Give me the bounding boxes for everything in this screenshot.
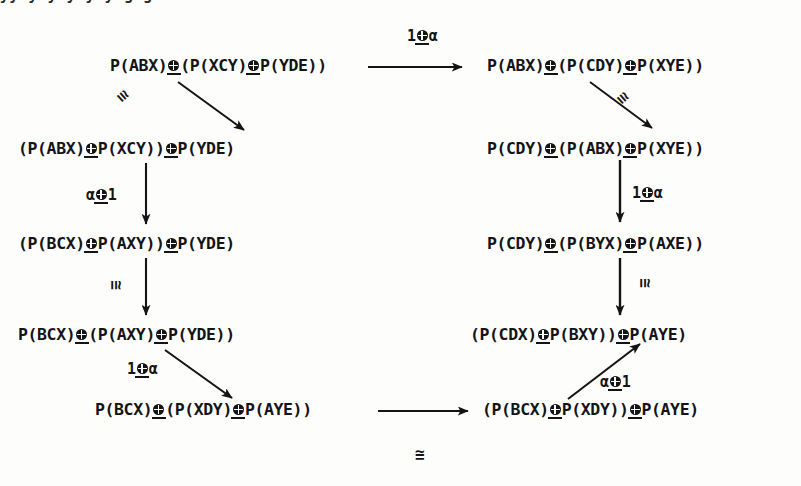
tensor-icon <box>544 143 557 156</box>
node-bottom-left-part-1: P(BCX) <box>95 400 152 419</box>
tensor-icon <box>617 329 630 342</box>
label-right-1-tensor-alpha: 1α <box>632 186 663 201</box>
node-right-3-part-2: (P(BYX) <box>557 234 624 253</box>
arrow-top-left-diagonal <box>178 82 244 130</box>
congruence-right-vertical: ≅ <box>637 278 653 288</box>
node-top-right: P(ABX)(P(CDY)P(XYE)) <box>487 58 704 75</box>
node-right-3-part-3: P(AXE)) <box>637 234 704 253</box>
node-right-4-part-3: P(AYE) <box>630 325 687 344</box>
node-bottom-right-part-3: P(AYE) <box>642 400 699 419</box>
tensor-icon <box>152 404 165 417</box>
node-right-4: (P(CDX)P(BXY))P(AYE) <box>470 327 687 344</box>
label-left-alpha-tensor-1: α1 <box>86 188 117 203</box>
tensor-icon <box>167 60 180 73</box>
tensor-icon <box>85 238 98 251</box>
node-left-4: P(BCX)(P(AXY)P(YDE)) <box>18 327 235 344</box>
label-left-1-tensor-alpha: 1α <box>127 362 158 377</box>
tensor-icon <box>136 363 149 376</box>
label-right-alpha-tensor-1: α1 <box>600 375 631 390</box>
node-top-right-part-1: P(ABX) <box>487 56 544 75</box>
tensor-icon <box>85 143 98 156</box>
tensor-icon <box>537 329 550 342</box>
label-right-alpha1-right-operand: 1 <box>622 373 631 391</box>
cropped-text-line-glyphs: yy y y y y y g g <box>0 0 153 4</box>
tensor-icon <box>165 238 178 251</box>
tensor-icon <box>641 187 654 200</box>
node-left-2-part-1: (P(ABX) <box>18 139 85 158</box>
node-bottom-right-part-2: P(XDY)) <box>562 400 629 419</box>
tensor-icon <box>247 60 260 73</box>
tensor-icon <box>95 189 108 202</box>
node-right-2-part-1: P(CDY) <box>487 139 544 158</box>
cropped-text-line: yy y y y y y g g <box>0 0 801 9</box>
node-right-2-part-3: P(XYE)) <box>637 139 704 158</box>
node-top-left-part-3: P(YDE)) <box>260 56 327 75</box>
congruence-top-right-diagonal: ≅ <box>614 89 632 107</box>
node-bottom-right: (P(BCX)P(XDY))P(AYE) <box>482 402 699 419</box>
label-top-right-operand: α <box>429 27 438 45</box>
node-top-right-part-2: (P(CDY) <box>557 56 624 75</box>
label-right-1alpha-right-operand: α <box>654 184 663 202</box>
node-left-2: (P(ABX)P(XCY))P(YDE) <box>18 141 235 158</box>
node-left-3-part-1: (P(BCX) <box>18 234 85 253</box>
tensor-icon <box>624 60 637 73</box>
tensor-icon <box>75 329 88 342</box>
tensor-icon <box>544 60 557 73</box>
node-left-4-part-1: P(BCX) <box>18 325 75 344</box>
tensor-icon <box>232 404 245 417</box>
node-right-4-part-1: (P(CDX) <box>470 325 537 344</box>
node-bottom-left: P(BCX)(P(XDY)P(AYE)) <box>95 402 312 419</box>
tensor-icon <box>165 143 178 156</box>
node-right-2: P(CDY)(P(ABX)P(XYE)) <box>487 141 704 158</box>
tensor-icon <box>155 329 168 342</box>
node-right-4-part-2: P(BXY)) <box>550 325 617 344</box>
congruence-bottom-horizontal: ≅ <box>415 447 425 463</box>
diagram-canvas: yy y y y y y g g P(ABX <box>0 0 801 486</box>
tensor-icon <box>544 238 557 251</box>
node-bottom-left-part-3: P(AYE)) <box>245 400 312 419</box>
node-left-3: (P(BCX)P(AXY))P(YDE) <box>18 236 235 253</box>
node-left-3-part-3: P(YDE) <box>178 234 235 253</box>
tensor-icon <box>624 238 637 251</box>
node-right-3: P(CDY)(P(BYX)P(AXE)) <box>487 236 704 253</box>
label-left-1alpha-right-operand: α <box>149 360 158 378</box>
tensor-icon <box>629 404 642 417</box>
tensor-icon <box>416 30 429 43</box>
node-left-4-part-3: P(YDE)) <box>168 325 235 344</box>
node-left-2-part-3: P(YDE) <box>178 139 235 158</box>
node-left-3-part-2: P(AXY)) <box>98 234 165 253</box>
node-left-4-part-2: (P(AXY) <box>88 325 155 344</box>
congruence-top-left-diagonal: ≅ <box>114 87 132 105</box>
node-bottom-right-part-1: (P(BCX) <box>482 400 549 419</box>
node-left-2-part-2: P(XCY)) <box>98 139 165 158</box>
node-top-left: P(ABX)(P(XCY)P(YDE)) <box>110 58 327 75</box>
node-top-left-part-2: (P(XCY) <box>180 56 247 75</box>
node-top-right-part-3: P(XYE)) <box>637 56 704 75</box>
arrow-left-bottom-diagonal <box>165 350 232 398</box>
tensor-icon <box>624 143 637 156</box>
congruence-left-vertical: ≅ <box>108 280 124 290</box>
label-left-alpha1-right-operand: 1 <box>108 186 117 204</box>
node-bottom-left-part-2: (P(XDY) <box>165 400 232 419</box>
tensor-icon <box>549 404 562 417</box>
node-right-2-part-2: (P(ABX) <box>557 139 624 158</box>
node-right-3-part-1: P(CDY) <box>487 234 544 253</box>
label-top-1-tensor-alpha: 1α <box>407 29 438 44</box>
node-top-left-part-1: P(ABX) <box>110 56 167 75</box>
tensor-icon <box>609 376 622 389</box>
